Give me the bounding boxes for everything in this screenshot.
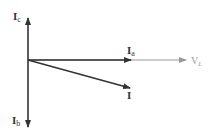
label-ib: Ib: [12, 114, 20, 128]
phasor-i-arrow: [28, 60, 130, 88]
phasor-diagram: Ic Ib Ia VL I: [0, 0, 212, 137]
label-ia: Ia: [127, 44, 135, 58]
label-i: I: [127, 89, 131, 101]
label-ic: Ic: [13, 10, 21, 24]
label-vl: VL: [191, 55, 202, 68]
